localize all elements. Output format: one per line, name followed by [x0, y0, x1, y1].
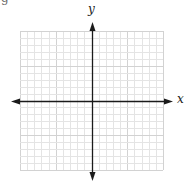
grid-lines — [20, 31, 164, 171]
x-axis-left-arrow-icon — [11, 99, 20, 105]
y-axis-down-arrow-icon — [90, 172, 96, 181]
x-axis-label: x — [177, 92, 184, 106]
coordinate-plane — [0, 0, 191, 184]
y-axis-up-arrow-icon — [90, 22, 96, 31]
y-axis-label: y — [88, 2, 95, 16]
x-axis-right-arrow-icon — [164, 99, 173, 105]
